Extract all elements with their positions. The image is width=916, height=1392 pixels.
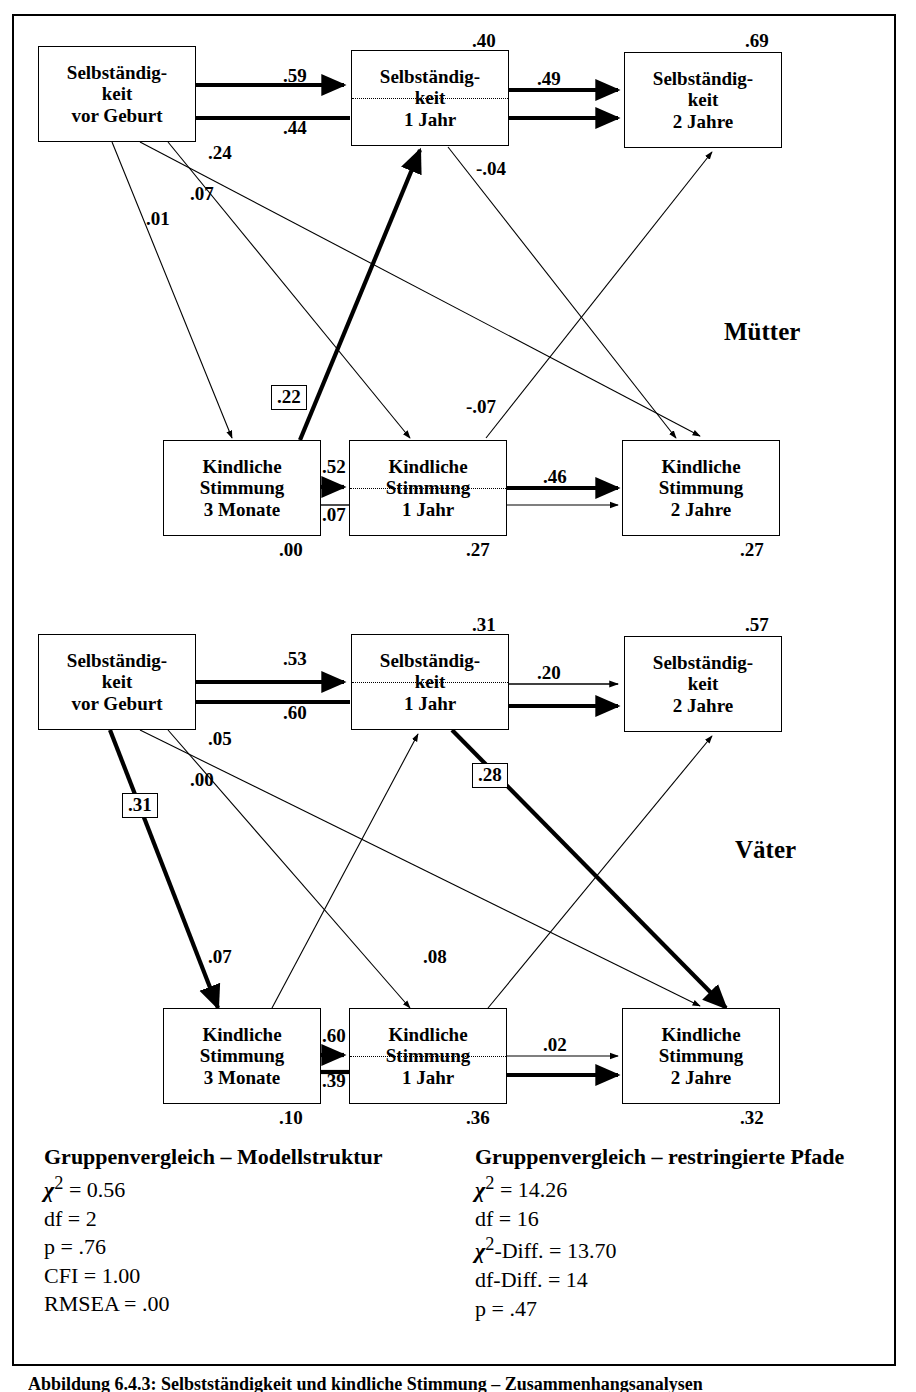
node-kindliche-stimmung-1-jahr-mothers[interactable]: Kindliche Stimmung 1 Jahr (349, 440, 507, 536)
node-line-2: keit (102, 671, 133, 692)
r2-k0-fathers: .10 (279, 1107, 303, 1129)
r2-k2-fathers: .32 (740, 1107, 764, 1129)
node-line-1: Selbständig- (67, 650, 167, 671)
stats-p-left: p = .76 (44, 1233, 383, 1262)
node-line-3: 1 Jahr (404, 693, 456, 714)
node-kindliche-stimmung-3-monate-mothers[interactable]: Kindliche Stimmung 3 Monate (163, 440, 321, 536)
coef-s0-s1-a-mothers: .59 (283, 65, 307, 87)
node-divider (352, 682, 508, 683)
stats-chi-square-right: χ2 = 14.26 (475, 1172, 844, 1205)
stats-heading-right: Gruppenvergleich – restringierte Pfade (475, 1143, 844, 1172)
stats-df-diff-right: df-Diff. = 14 (475, 1266, 844, 1295)
coef-s0-k2-mothers: .07 (190, 183, 214, 205)
coef-k0-k1-a-mothers: .52 (322, 456, 346, 478)
coef-s0-k0-fathers: .31 (122, 793, 158, 818)
coef-s1-k2-fathers: .28 (472, 763, 508, 788)
r2-k1-mothers: .27 (466, 539, 490, 561)
node-divider (350, 1056, 506, 1057)
node-kindliche-stimmung-2-jahre-fathers[interactable]: Kindliche Stimmung 2 Jahre (622, 1008, 780, 1104)
node-line-2: Stimmung (200, 1045, 284, 1066)
group-label-fathers: Väter (735, 836, 796, 864)
chi-symbol: χ (475, 1177, 485, 1202)
r2-s2-fathers: .57 (745, 614, 769, 636)
coef-s1-s2-mothers: .49 (537, 68, 561, 90)
r2-s2-mothers: .69 (745, 30, 769, 52)
node-selbstaendigkeit-1-jahr-fathers[interactable]: Selbständig- keit 1 Jahr (351, 634, 509, 730)
node-selbstaendigkeit-1-jahr-mothers[interactable]: Selbständig- keit 1 Jahr (351, 50, 509, 146)
node-line-3: 3 Monate (204, 499, 281, 520)
r2-k1-fathers: .36 (466, 1107, 490, 1129)
coef-k0-k1-b-fathers: .39 (322, 1070, 346, 1092)
node-line-1: Selbständig- (380, 650, 480, 671)
coef-s0-k1-fathers: .05 (208, 728, 232, 750)
node-line-2: Stimmung (200, 477, 284, 498)
coef-s0-k2-fathers: .00 (190, 769, 214, 791)
coef-s1-k2-mothers: -.04 (476, 158, 506, 180)
node-line-3: 2 Jahre (671, 499, 731, 520)
node-line-3: 1 Jahr (402, 499, 454, 520)
node-line-2: Stimmung (659, 477, 743, 498)
coef-k1-k2-fathers: .02 (543, 1034, 567, 1056)
node-kindliche-stimmung-1-jahr-fathers[interactable]: Kindliche Stimmung 1 Jahr (349, 1008, 507, 1104)
node-line-3: 3 Monate (204, 1067, 281, 1088)
stats-heading-left: Gruppenvergleich – Modellstruktur (44, 1143, 383, 1172)
coef-k0-k1-a-fathers: .60 (322, 1025, 346, 1047)
coef-s0-k0-mothers: .01 (146, 208, 170, 230)
group-label-mothers: Mütter (724, 318, 800, 346)
node-line-3: 1 Jahr (404, 109, 456, 130)
coef-k1-s2-fathers: .08 (423, 946, 447, 968)
coef-s0-k1-mothers: .24 (208, 142, 232, 164)
r2-s1-fathers: .31 (472, 614, 496, 636)
node-line-1: Kindliche (661, 1024, 740, 1045)
stats-df-left: df = 2 (44, 1205, 383, 1234)
node-line-3: vor Geburt (72, 693, 163, 714)
node-divider (350, 488, 506, 489)
node-line-1: Kindliche (388, 1024, 467, 1045)
r2-k2-mothers: .27 (740, 539, 764, 561)
node-line-3: 2 Jahre (671, 1067, 731, 1088)
node-line-1: Kindliche (202, 1024, 281, 1045)
stats-chi-diff-right: χ2-Diff. = 13.70 (475, 1233, 844, 1266)
node-selbstaendigkeit-2-jahre-fathers[interactable]: Selbständig- keit 2 Jahre (624, 636, 782, 732)
stats-chi-square-left: χ2 = 0.56 (44, 1172, 383, 1205)
node-line-2: keit (102, 83, 133, 104)
chi-symbol: χ (44, 1177, 54, 1202)
stats-model-structure: Gruppenvergleich – Modellstruktur χ2 = 0… (44, 1143, 383, 1319)
node-line-3: 1 Jahr (402, 1067, 454, 1088)
node-line-1: Kindliche (388, 456, 467, 477)
node-line-1: Kindliche (202, 456, 281, 477)
node-line-3: vor Geburt (72, 105, 163, 126)
node-line-1: Selbständig- (380, 66, 480, 87)
node-line-1: Kindliche (661, 456, 740, 477)
chi-value: = 0.56 (69, 1177, 125, 1202)
node-line-3: 2 Jahre (673, 111, 733, 132)
node-selbstaendigkeit-2-jahre-mothers[interactable]: Selbständig- keit 2 Jahre (624, 52, 782, 148)
node-line-2: keit (688, 673, 719, 694)
node-kindliche-stimmung-2-jahre-mothers[interactable]: Kindliche Stimmung 2 Jahre (622, 440, 780, 536)
chi-value: = 14.26 (500, 1177, 567, 1202)
r2-s1-mothers: .40 (472, 30, 496, 52)
node-line-1: Selbständig- (653, 68, 753, 89)
r2-k0-mothers: .00 (279, 539, 303, 561)
node-line-2: Stimmung (659, 1045, 743, 1066)
coef-s0-s1-a-fathers: .53 (283, 648, 307, 670)
node-line-1: Selbständig- (67, 62, 167, 83)
stats-rmsea-left: RMSEA = .00 (44, 1290, 383, 1319)
node-line-3: 2 Jahre (673, 695, 733, 716)
node-kindliche-stimmung-3-monate-fathers[interactable]: Kindliche Stimmung 3 Monate (163, 1008, 321, 1104)
chi-diff-value: -Diff. = 13.70 (494, 1238, 616, 1263)
node-line-1: Selbständig- (653, 652, 753, 673)
coef-s0-s1-b-fathers: .60 (283, 702, 307, 724)
coef-s0-s1-b-mothers: .44 (283, 117, 307, 139)
coef-k0-s1-fathers: .07 (208, 946, 232, 968)
coef-k0-k1-b-mothers: .07 (322, 504, 346, 526)
stats-p-right: p = .47 (475, 1295, 844, 1324)
stats-restricted-paths: Gruppenvergleich – restringierte Pfade χ… (475, 1143, 844, 1323)
coef-k1-s2-mothers: -.07 (466, 396, 496, 418)
node-selbstaendigkeit-vor-geburt-mothers[interactable]: Selbständig- keit vor Geburt (38, 46, 196, 142)
coef-s1-s2-fathers: .20 (537, 662, 561, 684)
node-selbstaendigkeit-vor-geburt-fathers[interactable]: Selbständig- keit vor Geburt (38, 634, 196, 730)
coef-k1-k2-mothers: .46 (543, 466, 567, 488)
node-line-2: keit (688, 89, 719, 110)
coef-k0-s1-mothers: .22 (271, 385, 307, 410)
